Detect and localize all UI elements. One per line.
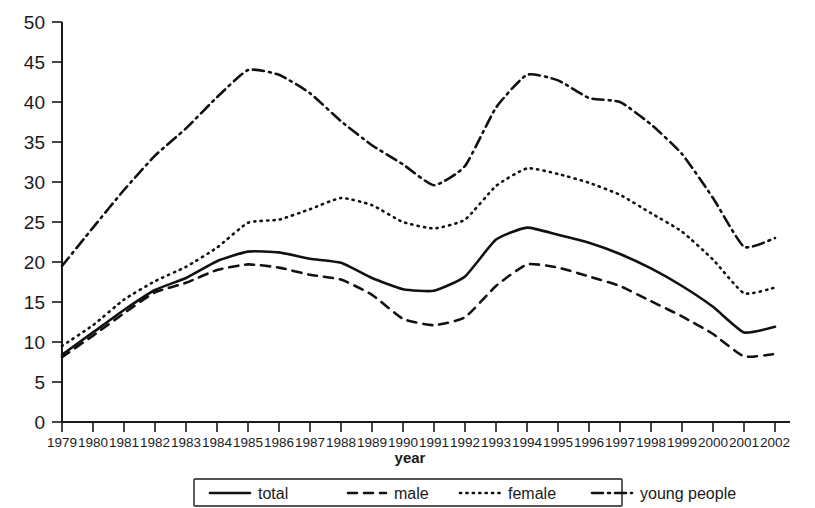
y-tick-label: 0 <box>34 412 45 433</box>
x-axis-group: 1979198019811982198319841985198619871988… <box>47 422 790 450</box>
legend-label-male: male <box>394 485 429 502</box>
legend-label-female: female <box>508 485 556 502</box>
y-tick-label: 5 <box>34 372 45 393</box>
x-tick-label: 1998 <box>636 435 666 450</box>
x-tick-group: 1979198019811982198319841985198619871988… <box>47 422 790 450</box>
x-tick-label: 1999 <box>667 435 697 450</box>
x-tick-label: 1995 <box>543 435 573 450</box>
y-tick-label: 35 <box>24 132 45 153</box>
y-axis-group: 05101520253035404550 <box>24 12 62 433</box>
y-tick-group: 05101520253035404550 <box>24 12 62 433</box>
x-tick-label: 1985 <box>233 435 263 450</box>
x-tick-label: 1987 <box>295 435 325 450</box>
x-tick-label: 1991 <box>419 435 449 450</box>
x-tick-label: 1989 <box>357 435 387 450</box>
x-tick-label: 1979 <box>47 435 77 450</box>
series-line-female <box>62 168 775 346</box>
y-tick-label: 15 <box>24 292 45 313</box>
x-tick-label: 1988 <box>326 435 356 450</box>
chart-legend: totalmalefemaleyoung people <box>194 479 736 506</box>
x-tick-label: 1993 <box>481 435 511 450</box>
y-tick-label: 45 <box>24 52 45 73</box>
x-tick-label: 1980 <box>78 435 108 450</box>
y-tick-label: 25 <box>24 212 45 233</box>
x-tick-label: 2002 <box>760 435 790 450</box>
x-tick-label: 1992 <box>450 435 480 450</box>
y-tick-label: 30 <box>24 172 45 193</box>
x-tick-label: 1994 <box>512 435 543 450</box>
y-tick-label: 20 <box>24 252 45 273</box>
y-tick-label: 10 <box>24 332 45 353</box>
x-tick-label: 1997 <box>605 435 635 450</box>
y-tick-label: 50 <box>24 12 45 33</box>
x-tick-label: 1986 <box>264 435 294 450</box>
x-tick-label: 2000 <box>698 435 728 450</box>
x-tick-label: 1990 <box>388 435 418 450</box>
x-tick-label: 1981 <box>109 435 139 450</box>
line-chart: 05101520253035404550 1979198019811982198… <box>0 0 815 508</box>
x-axis-title: year <box>395 449 426 466</box>
chart-canvas: 05101520253035404550 1979198019811982198… <box>0 0 815 508</box>
y-tick-label: 40 <box>24 92 45 113</box>
x-tick-label: 1982 <box>140 435 170 450</box>
x-tick-label: 1996 <box>574 435 604 450</box>
x-tick-label: 1984 <box>202 435 233 450</box>
legend-label-total: total <box>258 485 288 502</box>
legend-label-young-people: young people <box>640 485 736 502</box>
x-tick-label: 1983 <box>171 435 201 450</box>
series-line-young-people <box>62 70 775 266</box>
series-group <box>62 70 775 358</box>
x-tick-label: 2001 <box>729 435 759 450</box>
series-line-total <box>62 228 775 355</box>
